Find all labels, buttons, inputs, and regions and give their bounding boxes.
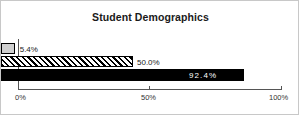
x-axis-label-50: 50% (141, 93, 156, 102)
x-axis-tick-100 (281, 86, 282, 90)
x-axis-tick-50 (149, 86, 150, 90)
x-axis-line (18, 89, 282, 90)
bar-row-2: 50.0% (1, 56, 264, 67)
bar-row-1: 5.4% (1, 43, 264, 54)
bar-label-series-3: 92.4% (189, 71, 217, 80)
bar-series-2 (1, 56, 133, 67)
chart-title: Student Demographics (1, 11, 299, 23)
chart-frame: Student Demographics 5.4% 50.0% 92.4% 0%… (0, 0, 299, 115)
bar-label-series-1: 5.4% (20, 44, 38, 53)
x-axis-label-0: 0% (15, 93, 26, 102)
bar-series-1 (1, 43, 15, 54)
x-axis-tick-0 (18, 86, 19, 90)
bar-label-series-2: 50.0% (137, 57, 160, 66)
x-axis-label-100: 100% (269, 93, 288, 102)
bar-row-3: 92.4% (1, 69, 264, 81)
